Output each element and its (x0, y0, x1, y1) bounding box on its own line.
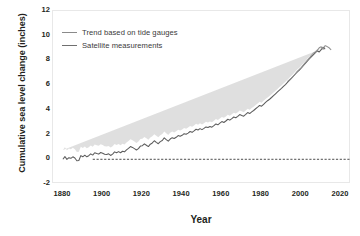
x-tick-1900: 1900 (82, 189, 122, 198)
x-tick-2020: 2020 (320, 189, 360, 198)
sea-level-chart-figure: Cumulative sea level change (inches) -20… (0, 0, 360, 236)
y-tick-4: 4 (6, 105, 50, 113)
y-tick--2: -2 (6, 179, 50, 187)
y-tick-2: 2 (6, 130, 50, 138)
confidence-band-group (63, 46, 325, 152)
y-tick-10: 10 (6, 31, 50, 39)
legend-line-swatch-satellite (62, 45, 77, 46)
chart-legend: Trend based on tide gauges Satellite mea… (58, 24, 182, 54)
x-tick-2000: 2000 (280, 189, 320, 198)
x-tick-1880: 1880 (42, 189, 82, 198)
legend-item-satellite: Satellite measurements (62, 39, 178, 52)
x-tick-1980: 1980 (241, 189, 281, 198)
legend-item-tide-gauges: Trend based on tide gauges (62, 26, 178, 39)
y-tick-8: 8 (6, 55, 50, 63)
x-axis-title: Year (52, 214, 350, 225)
x-tick-1960: 1960 (201, 189, 241, 198)
y-axis-tick-labels: -2024681012 (0, 0, 50, 236)
y-tick-12: 12 (6, 6, 50, 14)
tide-gauge-confidence-band (63, 46, 325, 152)
legend-line-swatch-tide (62, 32, 77, 33)
x-tick-1920: 1920 (121, 189, 161, 198)
x-tick-1940: 1940 (161, 189, 201, 198)
legend-label-satellite: Satellite measurements (82, 41, 162, 50)
y-tick-0: 0 (6, 154, 50, 162)
y-tick-6: 6 (6, 80, 50, 88)
legend-label-tide-gauges: Trend based on tide gauges (82, 28, 178, 37)
